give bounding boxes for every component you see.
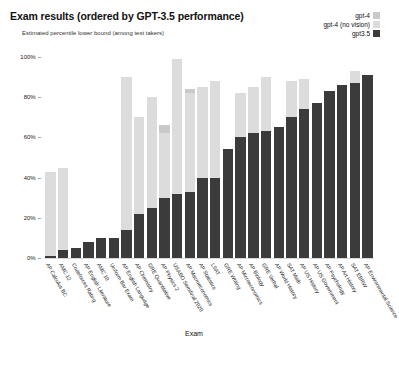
- bar-segment-gpt3-5: [324, 91, 334, 258]
- bar-column[interactable]: [298, 57, 311, 258]
- bar-column[interactable]: [272, 57, 285, 258]
- bar-segment-gpt3-5: [121, 230, 131, 258]
- x-axis-label-slot: AP English Language: [120, 260, 133, 355]
- bar-group: [44, 57, 374, 258]
- legend-swatch-icon: [373, 30, 380, 37]
- legend-label: gpt-4: [355, 12, 370, 19]
- x-axis-label-slot: AP Art History: [336, 260, 349, 355]
- bar-column[interactable]: [349, 57, 362, 258]
- bar-segment-gpt3-5: [71, 248, 81, 258]
- bar-segment-gpt3-5: [134, 214, 144, 258]
- bar-segment-gpt3-5: [159, 198, 169, 258]
- bar-column[interactable]: [196, 57, 209, 258]
- x-axis-label-slot: AP Environmental Science: [361, 260, 374, 355]
- bar-segment-gpt3-5: [312, 103, 322, 258]
- bar-segment-gpt3-5: [248, 133, 258, 258]
- y-axis-tick: 80%–: [24, 94, 44, 100]
- bar-segment-gpt3-5: [185, 192, 195, 258]
- bar-column[interactable]: [361, 57, 374, 258]
- chart-subtitle: Estimated percentile lower bound (among …: [22, 30, 164, 36]
- x-axis-title: Exam: [0, 330, 388, 337]
- bar-segment-gpt3-5: [58, 250, 68, 258]
- bar-segment-gpt3-5: [147, 208, 157, 258]
- bar-segment-gpt3-5: [83, 242, 93, 258]
- bar-column[interactable]: [260, 57, 273, 258]
- bar-segment-gpt3-5: [337, 85, 347, 258]
- bar-column[interactable]: [44, 57, 57, 258]
- bar-column[interactable]: [69, 57, 82, 258]
- bar-segment-gpt3-5: [286, 117, 296, 258]
- bar-column[interactable]: [95, 57, 108, 258]
- legend-swatch-icon: [373, 21, 380, 28]
- bar-segment-gpt3-5: [274, 127, 284, 258]
- x-axis-labels: AP Calculus BCAMC 12Codeforces RatingAP …: [44, 260, 374, 355]
- x-axis-label-slot: AMC 12: [57, 260, 70, 355]
- bar-column[interactable]: [133, 57, 146, 258]
- legend-item-gpt-4-no-vision: gpt-4 (no vision): [323, 21, 380, 28]
- bar-column[interactable]: [146, 57, 159, 258]
- legend-item-gpt-4: gpt-4: [355, 12, 380, 19]
- x-axis-label: LSAT: [210, 262, 222, 276]
- x-axis-label-slot: GRE Writing: [222, 260, 235, 355]
- bar-segment-gpt3-5: [197, 178, 207, 258]
- y-axis-tick: 0%–: [27, 255, 44, 261]
- x-axis-label-slot: LSAT: [209, 260, 222, 355]
- bar-segment-gpt3-5: [223, 149, 233, 258]
- x-axis-label-slot: GRE Quantitative: [146, 260, 159, 355]
- x-axis-label-slot: GRE Verbal: [260, 260, 273, 355]
- bar-column[interactable]: [120, 57, 133, 258]
- x-axis-label-slot: AP Chemistry: [133, 260, 146, 355]
- y-axis-tick: 20%–: [24, 215, 44, 221]
- bar-segment-gpt3-5: [45, 256, 55, 258]
- bar-column[interactable]: [184, 57, 197, 258]
- bar-segment-gpt3-5: [350, 83, 360, 258]
- x-axis-label-slot: Codeforces Rating: [69, 260, 82, 355]
- x-axis-line: [44, 258, 374, 259]
- x-axis-label-slot: Uniform Bar Exam: [107, 260, 120, 355]
- chart-legend: gpt-4 gpt-4 (no vision) gpt3.5: [323, 12, 380, 37]
- bar-segment-gpt3-5: [362, 75, 372, 258]
- x-axis-label-slot: AP Calculus BC: [44, 260, 57, 355]
- bar-column[interactable]: [336, 57, 349, 258]
- bar-column[interactable]: [247, 57, 260, 258]
- bar-column[interactable]: [323, 57, 336, 258]
- bar-segment-gpt3-5: [172, 194, 182, 258]
- x-axis-label-slot: SAT EBRW: [349, 260, 362, 355]
- x-axis-label: AP Environmental Science: [362, 262, 398, 319]
- bar-column[interactable]: [222, 57, 235, 258]
- x-axis-label-slot: SAT Math: [285, 260, 298, 355]
- y-axis-tick: 40%–: [24, 175, 44, 181]
- x-axis-label-slot: AP Macroeconomics: [184, 260, 197, 355]
- bar-segment-gpt3-5: [299, 109, 309, 258]
- x-axis-label-slot: AP US Government: [310, 260, 323, 355]
- x-axis-label-slot: AP English Literature: [82, 260, 95, 355]
- bar-segment-gpt-4-no-vision-: [45, 172, 55, 258]
- bar-segment-gpt3-5: [96, 238, 106, 258]
- bar-segment-gpt3-5: [109, 238, 119, 258]
- x-axis-label-slot: AP Statistics: [196, 260, 209, 355]
- x-axis-label-slot: AP Physics 2: [158, 260, 171, 355]
- bar-column[interactable]: [310, 57, 323, 258]
- plot-area: 0%–20%–40%–60%–80%–100%–: [44, 57, 374, 258]
- bar-column[interactable]: [285, 57, 298, 258]
- bar-column[interactable]: [57, 57, 70, 258]
- bar-segment-gpt3-5: [235, 137, 245, 258]
- legend-label: gpt-4 (no vision): [323, 21, 370, 28]
- legend-label: gpt3.5: [352, 30, 370, 37]
- legend-swatch-icon: [373, 12, 380, 19]
- x-axis-label-slot: AP Microeconomics: [234, 260, 247, 355]
- legend-item-gpt3-5: gpt3.5: [352, 30, 380, 37]
- bar-column[interactable]: [234, 57, 247, 258]
- x-axis-label-slot: USABO Semifinal 2020: [171, 260, 184, 355]
- page-title: Exam results (ordered by GPT-3.5 perform…: [10, 10, 244, 22]
- bar-segment-gpt-4-no-vision-: [58, 168, 68, 258]
- x-axis-label-slot: AP Psychology: [323, 260, 336, 355]
- bar-column[interactable]: [82, 57, 95, 258]
- bar-column[interactable]: [171, 57, 184, 258]
- bar-column[interactable]: [158, 57, 171, 258]
- y-axis-tick: 100%–: [20, 54, 44, 60]
- bar-column[interactable]: [209, 57, 222, 258]
- x-axis-label-slot: AP Biology: [247, 260, 260, 355]
- bar-column[interactable]: [107, 57, 120, 258]
- y-axis-tick: 60%–: [24, 134, 44, 140]
